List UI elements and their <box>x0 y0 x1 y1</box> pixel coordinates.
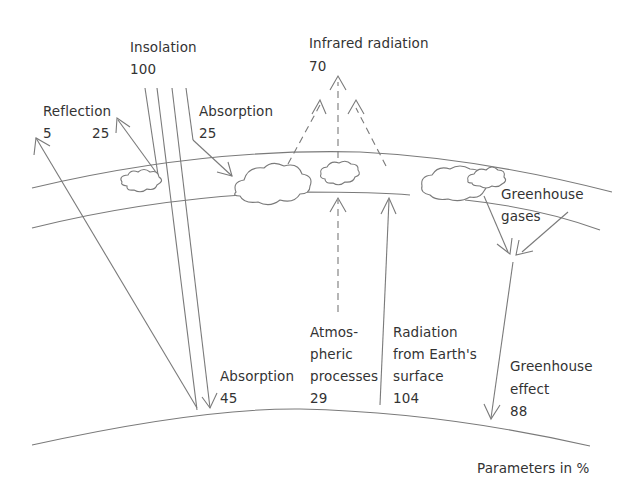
insolation-value: 100 <box>130 58 156 80</box>
greenhouse-gases-label-1: Greenhouse <box>501 183 584 205</box>
greenhouse-effect-label-1: Greenhouse <box>510 355 593 377</box>
greenhouse-effect-label-2: effect <box>510 378 549 400</box>
surface-radiation-label-1: Radiation <box>393 321 458 343</box>
reflection-label: Reflection <box>43 100 111 122</box>
surface-radiation-label-3: surface <box>393 365 444 387</box>
surface-radiation-value: 104 <box>393 387 419 409</box>
cloud-center-large <box>235 163 311 204</box>
infrared-label: Infrared radiation <box>309 32 429 54</box>
absorption-surface-value: 45 <box>220 387 237 409</box>
earth-surface <box>32 409 590 446</box>
units-note: Parameters in % <box>477 457 590 479</box>
cloud-center-small <box>321 161 360 185</box>
atmospheric-processes-label-2: pheric <box>310 343 353 365</box>
atmospheric-processes-label-1: Atmos- <box>310 321 358 343</box>
insolation-label: Insolation <box>130 36 197 58</box>
insolation-ray-4 <box>186 88 193 140</box>
reflection-value-right: 25 <box>92 122 109 144</box>
absorption-surface-label: Absorption <box>220 365 294 387</box>
arrowhead-infrared-right <box>348 100 364 114</box>
greenhouse-effect-value: 88 <box>510 400 527 422</box>
surface-radiation-arrow <box>380 200 389 405</box>
greenhouse-gases-label-2: gases <box>501 205 541 227</box>
absorption-atmosphere-label: Absorption <box>199 100 273 122</box>
reflection-value-left: 5 <box>43 122 52 144</box>
infrared-value: 70 <box>309 55 326 77</box>
absorption-atmosphere-value: 25 <box>199 122 216 144</box>
insolation-ray-1 <box>145 88 158 175</box>
cloud-left <box>121 170 162 192</box>
atmosphere-inner-boundary <box>32 192 410 228</box>
arrowhead-ghg-right <box>516 240 533 255</box>
atmospheric-processes-label-3: processes <box>310 365 378 387</box>
surface-radiation-label-2: from Earth's <box>393 343 477 365</box>
arrowhead-ghg-left <box>497 238 512 254</box>
reflection-5-arrow <box>36 138 197 408</box>
atmospheric-processes-value: 29 <box>310 387 327 409</box>
